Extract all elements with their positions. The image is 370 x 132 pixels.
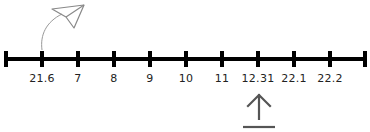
number-line-stage: 21.6 7 8 9 10 11 12.31 22.1 22.2 bbox=[0, 0, 370, 132]
upload-arrow-icon[interactable] bbox=[0, 0, 370, 132]
